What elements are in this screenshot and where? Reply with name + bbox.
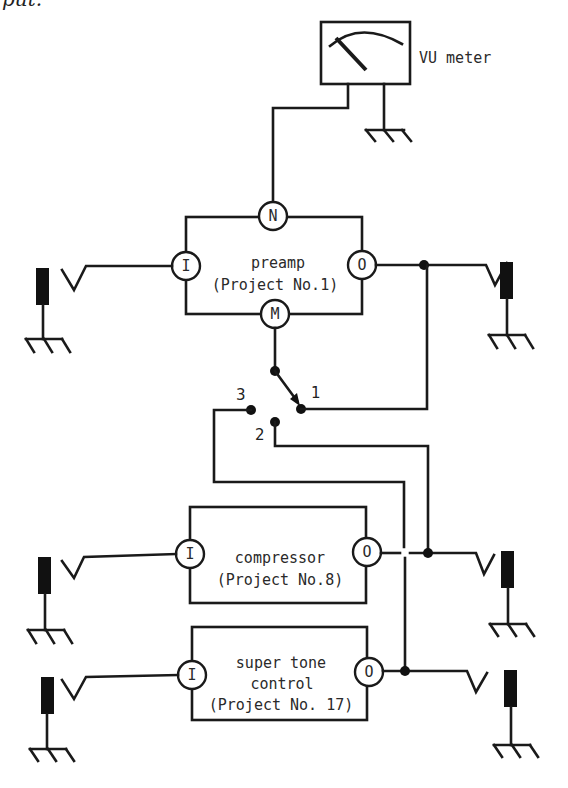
junction-dot <box>400 666 410 676</box>
preamp-name: preamp <box>251 254 305 272</box>
output-plug-icon[interactable] <box>489 262 533 348</box>
selector-switch[interactable]: 1 2 3 <box>236 328 321 444</box>
preamp-project: (Project No.1) <box>212 276 338 294</box>
output-plug-icon[interactable] <box>494 670 538 757</box>
terminal-label: M <box>270 305 279 323</box>
tone-input-jack-icon <box>62 675 178 699</box>
tone-output-jack-icon <box>383 671 487 692</box>
terminal-label: O <box>364 663 373 681</box>
terminal-label: I <box>187 666 196 684</box>
wire-switch3-to-tone-out-upper <box>214 410 404 547</box>
terminal-label: O <box>357 256 366 274</box>
wire-vu-to-preamp-n <box>273 84 348 203</box>
module-preamp: N I O M preamp (Project No.1) <box>172 202 376 328</box>
compressor-input-jack-icon <box>62 554 176 578</box>
preamp-output-jack-icon <box>376 263 507 285</box>
vu-meter-label: VU meter <box>419 49 491 67</box>
compressor-project: (Project No.8) <box>217 571 343 589</box>
switch-position-2-label: 2 <box>255 426 265 444</box>
switch-position-3-label: 3 <box>236 386 246 404</box>
terminal-label: I <box>185 545 194 563</box>
input-plug-icon[interactable] <box>26 268 70 352</box>
tone-name-line1: super tone <box>236 654 326 672</box>
vu-meter: VU meter <box>321 22 491 141</box>
vu-meter-needle-icon <box>336 38 366 70</box>
junction-dot <box>423 548 433 558</box>
module-compressor: I O compressor (Project No.8) <box>176 507 381 603</box>
tone-name-line2: control <box>250 675 313 693</box>
switch-position-1-label: 1 <box>311 384 321 402</box>
preamp-input-jack-icon <box>62 266 172 290</box>
input-plug-icon[interactable] <box>28 557 72 643</box>
tone-project: (Project No. 17) <box>209 696 354 714</box>
compressor-name: compressor <box>235 549 325 567</box>
terminal-label: O <box>362 543 371 561</box>
terminal-label: I <box>181 257 190 275</box>
output-plug-icon[interactable] <box>490 551 534 636</box>
caption-fragment: put. <box>2 0 42 11</box>
compressor-output-jack-icon <box>410 553 494 574</box>
module-super-tone-control: I O super tone control (Project No. 17) <box>178 627 383 720</box>
patch-diagram: put. VU meter N I O M preamp (Project No… <box>0 0 568 788</box>
terminal-label: N <box>268 207 277 225</box>
ground-icon <box>366 84 411 141</box>
